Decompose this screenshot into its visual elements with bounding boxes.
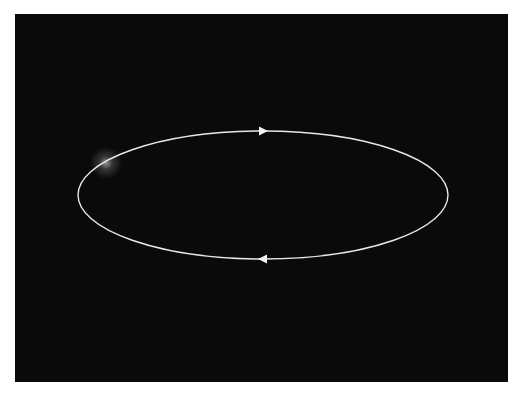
arrow-left-icon bbox=[258, 255, 267, 264]
arrow-right-icon bbox=[259, 127, 268, 136]
orbit-ellipse bbox=[78, 131, 448, 259]
orbit-diagram bbox=[0, 0, 523, 394]
glow-highlight bbox=[90, 147, 122, 179]
